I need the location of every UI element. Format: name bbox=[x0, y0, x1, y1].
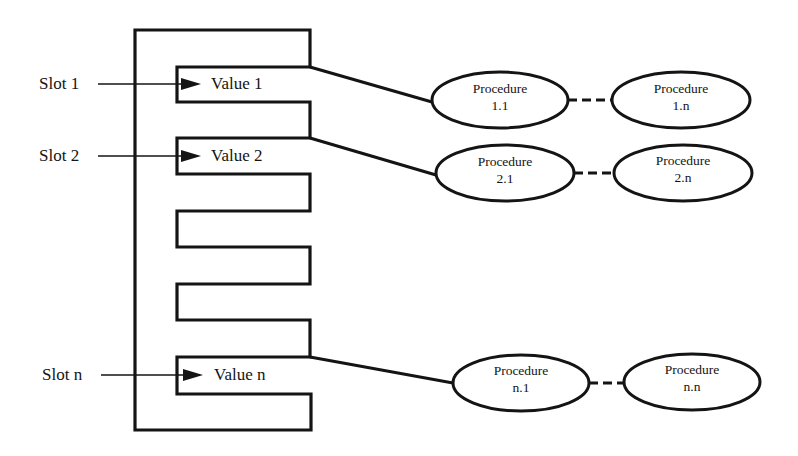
procedure-id: 1.n bbox=[621, 97, 741, 114]
connector-slot-1 bbox=[310, 67, 432, 102]
slot-2-arrow bbox=[98, 150, 201, 162]
procedure-1-1: Procedure 1.1 bbox=[440, 80, 560, 114]
procedure-2-n: Procedure 2.n bbox=[623, 152, 743, 186]
procedure-id: 2.1 bbox=[445, 170, 565, 187]
slot-1-value: Value 1 bbox=[211, 75, 262, 92]
procedure-title: Procedure bbox=[440, 80, 560, 97]
slot-n-label: Slot n bbox=[42, 366, 82, 383]
procedure-title: Procedure bbox=[461, 362, 581, 379]
procedure-id: n.n bbox=[632, 378, 752, 395]
procedure-2-1: Procedure 2.1 bbox=[445, 153, 565, 187]
slot-2-value: Value 2 bbox=[211, 147, 262, 164]
connector-slot-n bbox=[310, 357, 453, 383]
procedure-id: 2.n bbox=[623, 169, 743, 186]
slot-n-arrow bbox=[101, 369, 203, 381]
procedure-id: n.1 bbox=[461, 379, 581, 396]
slot-2-label: Slot 2 bbox=[39, 147, 79, 164]
procedure-title: Procedure bbox=[632, 361, 752, 378]
procedure-n-n: Procedure n.n bbox=[632, 361, 752, 395]
procedure-1-n: Procedure 1.n bbox=[621, 80, 741, 114]
connector-slot-2 bbox=[310, 138, 436, 175]
procedure-title: Procedure bbox=[445, 153, 565, 170]
slot-1-arrow bbox=[98, 78, 201, 90]
procedure-title: Procedure bbox=[623, 152, 743, 169]
slot-1-label: Slot 1 bbox=[39, 75, 79, 92]
procedure-title: Procedure bbox=[621, 80, 741, 97]
procedure-id: 1.1 bbox=[440, 97, 560, 114]
procedure-n-1: Procedure n.1 bbox=[461, 362, 581, 396]
slot-n-value: Value n bbox=[214, 366, 265, 383]
